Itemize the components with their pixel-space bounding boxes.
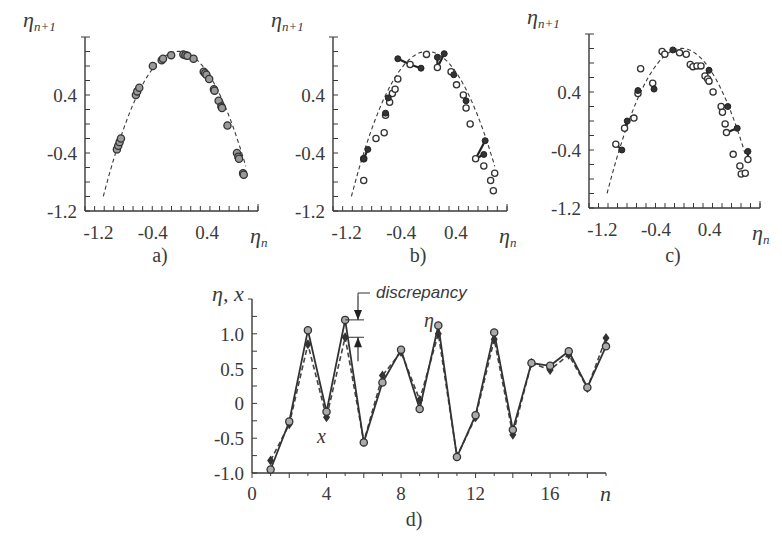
model-point <box>706 67 712 73</box>
x-series-label: x <box>316 425 326 447</box>
data-point <box>467 121 473 127</box>
y-axis-title: ηn+1 <box>527 4 560 31</box>
data-point <box>490 188 496 194</box>
data-point <box>395 76 401 82</box>
y-axis-title: ηn+1 <box>23 7 56 34</box>
x-tick-label: 0 <box>247 483 257 504</box>
eta-marker <box>584 384 591 391</box>
data-point <box>224 122 231 129</box>
data-point <box>662 51 668 57</box>
x-tick-label: -1.2 <box>332 222 362 243</box>
model-point <box>418 65 424 71</box>
model-point <box>361 156 367 162</box>
data-point <box>381 130 387 136</box>
y-tick-label: -1.0 <box>214 463 244 484</box>
discrepancy-leader <box>358 293 370 296</box>
data-point <box>117 135 124 142</box>
y-tick-label: 0.4 <box>557 82 581 103</box>
arrowhead-down-icon <box>354 310 362 320</box>
eta-marker <box>435 322 442 329</box>
arrowhead-up-icon <box>354 337 362 347</box>
model-point <box>365 146 371 152</box>
y-tick-label: -1.2 <box>295 201 325 222</box>
data-point <box>392 86 398 92</box>
y-axis-title: ηn+1 <box>271 7 304 34</box>
model-point <box>734 125 740 131</box>
data-point <box>159 55 166 62</box>
x-marker <box>603 333 610 343</box>
data-point <box>745 156 751 162</box>
eta-marker <box>602 343 609 350</box>
x-tick-label: -0.4 <box>138 222 169 243</box>
y-tick-label: 0 <box>235 393 245 414</box>
eta-marker <box>397 346 404 353</box>
data-point <box>235 155 242 162</box>
data-point <box>722 121 728 127</box>
model-point <box>624 118 630 124</box>
y-tick-label: 0.4 <box>53 85 77 106</box>
data-point <box>168 52 175 59</box>
y-tick-label: -0.4 <box>551 140 582 161</box>
eta-marker <box>565 348 572 355</box>
panel-b: 0.4-0.4-1.2-1.2-0.40.4ηn+1ηnb) <box>271 7 516 267</box>
data-point <box>460 92 466 98</box>
y-tick-label: -0.4 <box>47 143 78 164</box>
x-axis-title: n <box>600 481 611 506</box>
data-point <box>361 177 367 183</box>
eta-marker <box>528 359 535 366</box>
y-axis-title: η, x <box>212 281 244 306</box>
data-point <box>742 170 748 176</box>
eta-marker <box>509 426 516 433</box>
data-point <box>218 104 225 111</box>
model-point <box>383 110 389 116</box>
data-point <box>149 62 156 69</box>
y-tick-label: 0.4 <box>301 85 325 106</box>
x-tick-label: -1.2 <box>84 222 114 243</box>
data-point <box>613 141 619 147</box>
eta-marker <box>267 466 274 473</box>
x-tick-label: 12 <box>466 483 485 504</box>
model-point <box>463 98 469 104</box>
data-point <box>676 50 682 56</box>
x-tick-label: 0.4 <box>195 222 219 243</box>
model-point <box>395 56 401 62</box>
data-point <box>638 66 644 72</box>
eta-marker <box>547 362 554 369</box>
data-point <box>730 151 736 157</box>
eta-marker <box>286 418 293 425</box>
data-point <box>240 171 247 178</box>
model-point <box>670 47 676 53</box>
data-point <box>698 63 704 69</box>
data-point <box>453 82 459 88</box>
eta-series-label: η <box>424 309 434 332</box>
data-point <box>723 130 729 136</box>
eta-marker <box>453 453 460 460</box>
panel-label: d) <box>406 508 423 531</box>
data-point <box>706 78 712 84</box>
panel-a: 0.4-0.4-1.2-1.2-0.40.4ηn+1ηna) <box>23 7 267 267</box>
model-point <box>619 147 625 153</box>
eta-marker <box>416 405 423 412</box>
panel-d: 1.00.50-0.5-1.00481216η, xnd)discrepancy… <box>212 281 611 531</box>
x-tick-label: 4 <box>322 483 332 504</box>
data-point <box>683 51 689 57</box>
data-point <box>434 64 440 70</box>
model-point <box>651 86 657 92</box>
panel-c: 0.4-0.4-1.2-1.2-0.40.4ηn+1ηnc) <box>527 4 769 267</box>
data-point <box>423 51 429 57</box>
data-point <box>481 163 487 169</box>
data-point <box>373 135 379 141</box>
series-eta-line <box>271 320 606 470</box>
eta-marker <box>491 329 498 336</box>
model-point <box>451 72 457 78</box>
data-point <box>621 125 627 131</box>
data-point <box>407 61 413 67</box>
panel-label: b) <box>410 244 427 267</box>
data-point <box>719 109 725 115</box>
data-point <box>211 87 218 94</box>
model-point <box>725 104 731 110</box>
data-point <box>737 163 743 169</box>
x-tick-label: 8 <box>396 483 406 504</box>
x-tick-label: -0.4 <box>641 219 672 240</box>
data-point <box>463 105 469 111</box>
